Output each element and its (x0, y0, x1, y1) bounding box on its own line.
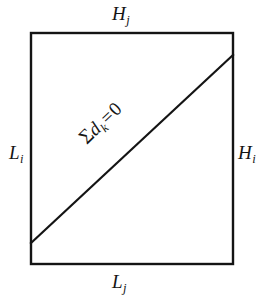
label-left-subscript: i (20, 152, 23, 166)
label-right-edge: Hi (238, 143, 255, 162)
label-bottom-edge: Lj (112, 272, 126, 291)
diagram-canvas: Hj Li Hi Lj Σdk=0 (0, 0, 267, 300)
diagram-vector-layer (0, 0, 267, 300)
label-top-subscript: j (126, 13, 129, 27)
label-bottom-symbol: L (112, 271, 123, 292)
label-top-symbol: H (112, 3, 126, 24)
diagonal-line (31, 55, 233, 243)
label-left-edge: Li (9, 143, 23, 162)
label-right-subscript: i (252, 152, 255, 166)
label-top-edge: Hj (112, 4, 129, 23)
label-left-symbol: L (9, 142, 20, 163)
label-bottom-subscript: j (123, 281, 126, 295)
label-right-symbol: H (238, 142, 252, 163)
